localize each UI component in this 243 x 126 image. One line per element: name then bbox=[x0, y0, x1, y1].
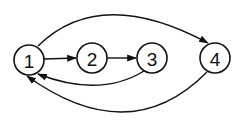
edge-4-to-1 bbox=[27, 72, 207, 112]
node-4: 4 bbox=[200, 43, 230, 73]
node-1: 1 bbox=[14, 45, 44, 75]
edge-1-to-4 bbox=[38, 15, 208, 46]
node-2-label: 2 bbox=[87, 49, 98, 70]
node-4-label: 4 bbox=[210, 49, 221, 70]
edge-1-to-2 bbox=[44, 58, 76, 59]
directed-graph: 1 2 3 4 bbox=[0, 0, 243, 126]
node-3: 3 bbox=[137, 43, 167, 73]
node-1-label: 1 bbox=[24, 51, 35, 72]
node-3-label: 3 bbox=[147, 49, 158, 70]
node-2: 2 bbox=[77, 43, 107, 73]
